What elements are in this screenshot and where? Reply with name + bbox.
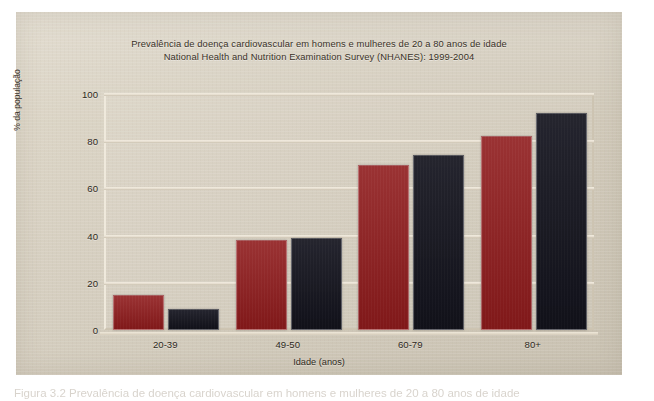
y-axis-tick-label: 60 xyxy=(58,183,98,194)
chart-title-line-1: Prevalência de doença cardiovascular em … xyxy=(16,38,622,51)
y-axis-title: % da população xyxy=(12,30,22,170)
bar-60-79-homens xyxy=(358,165,409,330)
x-axis-tick-label: 20-39 xyxy=(120,339,210,350)
x-axis-tick-label: 80+ xyxy=(488,339,578,350)
x-axis-title: Idade (anos) xyxy=(16,357,622,367)
bar-80+-mulheres xyxy=(536,113,587,330)
figure-caption: Figura 3.2 Prevalência de doença cardiov… xyxy=(14,386,640,401)
bar-49-50-homens xyxy=(236,240,287,330)
x-axis-tick-label: 49-50 xyxy=(243,339,333,350)
bar-20-39-homens xyxy=(113,295,164,330)
chart-panel: Prevalência de doença cardiovascular em … xyxy=(16,12,622,375)
x-axis-tick-label: 60-79 xyxy=(365,339,455,350)
bar-49-50-mulheres xyxy=(291,238,342,330)
gridline xyxy=(104,93,594,96)
bar-60-79-mulheres xyxy=(413,155,464,330)
chart-title: Prevalência de doença cardiovascular em … xyxy=(16,38,622,63)
plot-area xyxy=(104,94,594,330)
y-axis-tick-label: 0 xyxy=(58,325,98,336)
bar-80+-homens xyxy=(481,136,532,330)
y-axis-tick-label: 40 xyxy=(58,230,98,241)
bar-20-39-mulheres xyxy=(168,309,219,330)
x-axis-line xyxy=(100,332,598,335)
y-axis-tick-labels: 020406080100 xyxy=(52,94,98,330)
y-axis-tick-label: 20 xyxy=(58,277,98,288)
chart-title-line-2: National Health and Nutrition Examinatio… xyxy=(16,51,622,64)
y-axis-tick-label: 100 xyxy=(58,89,98,100)
y-axis-tick-label: 80 xyxy=(58,136,98,147)
figure-root: Prevalência de doença cardiovascular em … xyxy=(0,0,654,401)
